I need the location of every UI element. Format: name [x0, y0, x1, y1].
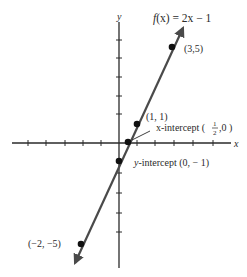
label-y-intercept: y-intercept (0, − 1): [133, 157, 209, 169]
point-x-intercept: [125, 139, 132, 146]
point-y-intercept: [116, 158, 123, 165]
function-line: [75, 28, 183, 263]
x-axis-label: x: [233, 138, 239, 149]
point-3-5: [169, 44, 176, 51]
function-graph: f(x) = 2x − 1 y x (3,5) (1, 1) x-interce…: [0, 0, 247, 277]
label-neg2-neg5: (−2, −5): [28, 238, 61, 250]
label-x-intercept-tail: ,0 ): [219, 122, 232, 134]
label-x-intercept-den: 2: [213, 129, 217, 137]
label-x-intercept-num: 1: [213, 120, 217, 128]
point-neg2-neg5: [78, 241, 85, 248]
y-axis-label: y: [116, 11, 122, 22]
label-3-5: (3,5): [184, 43, 203, 55]
label-x-intercept: x-intercept (: [156, 122, 206, 134]
point-1-1: [134, 121, 141, 128]
function-label: f(x) = 2x − 1: [153, 12, 212, 25]
